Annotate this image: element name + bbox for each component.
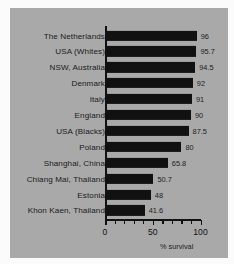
bar-row: England90 bbox=[10, 108, 228, 123]
x-axis-tick-label: 50 bbox=[148, 227, 158, 237]
bar bbox=[105, 158, 168, 168]
bar-value-label: 96 bbox=[201, 31, 209, 40]
x-axis-minor-tick bbox=[134, 220, 135, 224]
bar bbox=[105, 78, 193, 88]
bar-value-label: 87.5 bbox=[193, 126, 207, 135]
bar-row: Shanghai, China65.8 bbox=[10, 155, 228, 170]
x-axis-minor-tick bbox=[162, 220, 163, 224]
category-label: Chiang Mai, Thailand bbox=[27, 174, 105, 183]
category-label: Shanghai, China bbox=[44, 158, 105, 167]
category-label: NSW, Australia bbox=[50, 63, 105, 72]
x-axis-minor-tick bbox=[181, 220, 182, 224]
bar-row: Khon Kaen, Thailand41.6 bbox=[10, 203, 228, 218]
x-axis-minor-tick bbox=[115, 220, 116, 224]
x-axis-minor-tick bbox=[191, 220, 192, 224]
x-axis-major-tick bbox=[153, 220, 155, 225]
bar bbox=[105, 62, 195, 72]
x-axis-tick-label: 0 bbox=[103, 227, 108, 237]
bar-row: Italy91 bbox=[10, 92, 228, 107]
bar-row: NSW, Australia94.5 bbox=[10, 60, 228, 75]
bar-row: Chiang Mai, Thailand50.7 bbox=[10, 171, 228, 186]
bar-row: Estonia48 bbox=[10, 187, 228, 202]
category-label: England bbox=[75, 111, 105, 120]
category-label: Denmark bbox=[71, 79, 105, 88]
bar-row: Poland80 bbox=[10, 139, 228, 154]
bar-value-label: 65.8 bbox=[172, 158, 186, 167]
bar-row: USA (Whites)95.7 bbox=[10, 44, 228, 59]
bar-value-label: 80 bbox=[185, 142, 193, 151]
category-label: Khon Kaen, Thailand bbox=[28, 206, 105, 215]
chart-figure: The Netherlands96USA (Whites)95.7NSW, Au… bbox=[0, 0, 234, 264]
x-axis-minor-tick bbox=[124, 220, 125, 224]
category-label: Poland bbox=[79, 142, 105, 151]
x-axis-major-tick bbox=[201, 220, 203, 225]
bar-row: The Netherlands96 bbox=[10, 28, 228, 43]
bar bbox=[105, 110, 191, 120]
category-label: Estonia bbox=[77, 190, 105, 199]
bar-row: USA (Blacks)87.5 bbox=[10, 123, 228, 138]
category-label: USA (Blacks) bbox=[56, 126, 105, 135]
x-axis-major-tick bbox=[105, 220, 107, 225]
bar bbox=[105, 94, 192, 104]
bar-value-label: 92 bbox=[197, 79, 205, 88]
bar-value-label: 48 bbox=[155, 190, 163, 199]
bar bbox=[105, 126, 189, 136]
x-axis-minor-tick bbox=[143, 220, 144, 224]
x-axis-minor-tick bbox=[172, 220, 173, 224]
category-label: The Netherlands bbox=[44, 31, 105, 40]
chart-panel: The Netherlands96USA (Whites)95.7NSW, Au… bbox=[10, 8, 228, 258]
bar-row: Denmark92 bbox=[10, 76, 228, 91]
bar-value-label: 94.5 bbox=[199, 63, 213, 72]
x-axis-title: % survival bbox=[160, 242, 193, 251]
bar bbox=[105, 31, 197, 41]
x-axis-tick-label: 100 bbox=[193, 227, 207, 237]
bar-value-label: 90 bbox=[195, 111, 203, 120]
category-label: Italy bbox=[90, 95, 105, 104]
bar bbox=[105, 142, 181, 152]
bar bbox=[105, 174, 153, 184]
category-label: USA (Whites) bbox=[55, 47, 105, 56]
bar bbox=[105, 205, 145, 215]
bar-value-label: 41.6 bbox=[149, 206, 163, 215]
bar-value-label: 50.7 bbox=[157, 174, 171, 183]
bar-value-label: 91 bbox=[196, 95, 204, 104]
bar bbox=[105, 190, 151, 200]
bar-value-label: 95.7 bbox=[200, 47, 214, 56]
bar bbox=[105, 46, 196, 56]
plot-area: The Netherlands96USA (Whites)95.7NSW, Au… bbox=[10, 8, 228, 258]
